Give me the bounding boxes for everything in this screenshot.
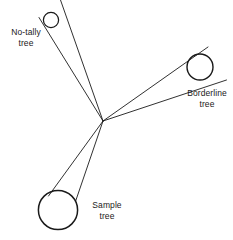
no-tally-tree-circle [43, 12, 58, 27]
sample-left-ray [49, 121, 104, 196]
borderline-tree-label: Borderline tree [181, 88, 233, 109]
figure-canvas: No-tally tree Borderline tree Sample tre… [0, 0, 233, 240]
caption-clip-strip [0, 236, 233, 240]
no-tally-tree-label: No-tally tree [4, 27, 48, 48]
borderline-upper-ray [103, 47, 208, 121]
sample-tree-circle [38, 190, 77, 229]
tree-circles-group [38, 12, 213, 229]
no-tally-upper-ray [61, 0, 104, 121]
borderline-tree-circle [187, 54, 213, 80]
no-tally-lower-ray [39, 18, 103, 122]
sample-tree-label: Sample tree [84, 200, 130, 221]
sample-right-ray [76, 121, 104, 202]
